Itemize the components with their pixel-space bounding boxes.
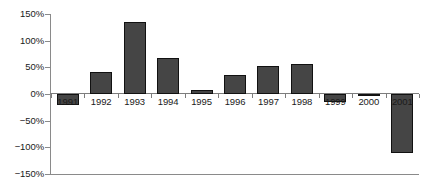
x-axis-tick-label: 1998 (285, 97, 318, 107)
x-axis-tick-label: 1995 (185, 97, 218, 107)
x-axis-tick-label: 1996 (218, 97, 251, 107)
bar-slot (84, 14, 117, 174)
y-axis-tick-label: −150% (0, 169, 44, 179)
bar-slot (386, 14, 419, 174)
bar-slot (118, 14, 151, 174)
bar-slot (252, 14, 285, 174)
x-axis-tick-label: 1993 (118, 97, 151, 107)
x-axis-tick-label: 2000 (352, 97, 385, 107)
bar[interactable] (291, 64, 313, 94)
bar-slot (319, 14, 352, 174)
bar-slot (51, 14, 84, 174)
x-axis-tick-label: 2001 (386, 97, 419, 107)
x-axis-tick-mark (419, 94, 420, 98)
y-axis-tick-label: −50% (0, 116, 44, 126)
x-axis-tick-label: 1992 (84, 97, 117, 107)
chart-bottom-frame (50, 174, 419, 175)
x-axis-tick-label: 1997 (252, 97, 285, 107)
bar[interactable] (257, 66, 279, 94)
bar-slot (285, 14, 318, 174)
bar[interactable] (224, 75, 246, 94)
bar-slot (185, 14, 218, 174)
bar[interactable] (157, 58, 179, 94)
y-axis-tick-label: 0% (0, 89, 44, 99)
x-axis-tick-label: 1999 (319, 97, 352, 107)
y-axis-tick-label: −100% (0, 142, 44, 152)
bar-slot (352, 14, 385, 174)
y-axis-tick-label: 100% (0, 36, 44, 46)
y-axis-tick-label: 50% (0, 62, 44, 72)
bar[interactable] (191, 90, 213, 94)
y-axis-tick-label: 150% (0, 9, 44, 19)
bar[interactable] (124, 22, 146, 94)
bar[interactable] (90, 72, 112, 94)
x-axis-tick-label: 1991 (51, 97, 84, 107)
bar-slot (218, 14, 251, 174)
x-axis-tick-label: 1994 (151, 97, 184, 107)
plot-area (51, 14, 419, 174)
bar-chart: 150%100%50%0%−50%−100%−150% 199119921993… (0, 0, 427, 194)
y-axis-label-group: 150%100%50%0%−50%−100%−150% (0, 0, 44, 194)
bar-slot (151, 14, 184, 174)
